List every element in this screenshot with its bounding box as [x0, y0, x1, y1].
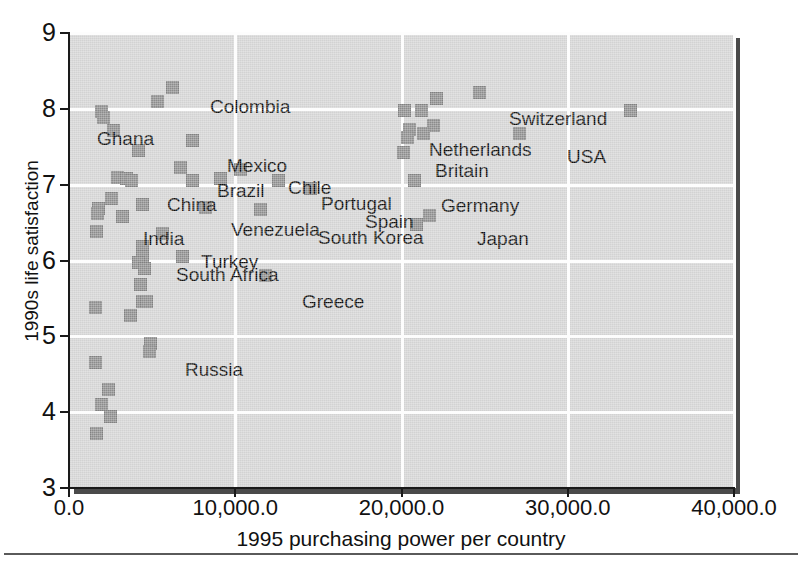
data-point-netherlands [415, 104, 428, 117]
gridline-x-40000 [733, 33, 736, 488]
data-point [136, 198, 149, 211]
gridline-x-30000 [567, 33, 570, 488]
point-label-mexico: Mexico [227, 156, 287, 175]
x-tick-label-30000: 30,000.0 [478, 497, 658, 519]
data-point [89, 356, 102, 369]
data-point [624, 104, 637, 117]
point-label-russia: Russia [185, 360, 243, 379]
y-axis-line [68, 32, 70, 489]
point-label-britain: Britain [435, 161, 489, 180]
data-point-switzerland [473, 86, 486, 99]
point-label-south-africa: South Africa [176, 265, 278, 284]
data-point [90, 225, 103, 238]
data-point [140, 295, 153, 308]
data-point [397, 146, 410, 159]
point-label-venezuela: Venezuela [231, 220, 320, 239]
data-point-germany [408, 174, 421, 187]
point-label-switzerland: Switzerland [509, 109, 607, 128]
y-axis-title: 1990s life satisfaction [21, 71, 43, 431]
data-point [104, 410, 117, 423]
y-tick-label-9: 9 [0, 20, 56, 45]
point-label-usa: USA [567, 147, 606, 166]
data-point-mexico [186, 134, 199, 147]
y-tick-7 [60, 184, 68, 186]
point-label-netherlands: Netherlands [429, 140, 531, 159]
point-label-brazil: Brazil [217, 181, 265, 200]
x-tick-label-20000: 20,000.0 [312, 497, 492, 519]
data-point [125, 174, 138, 187]
data-point [176, 250, 189, 263]
footer-rule [4, 553, 798, 555]
point-label-greece: Greece [302, 292, 364, 311]
x-tick-label-40000: 40,000.0 [644, 497, 802, 519]
y-tick-3 [60, 487, 68, 489]
x-tick-label-10000: 10,000.0 [145, 497, 325, 519]
data-point [90, 427, 103, 440]
data-point [91, 207, 104, 220]
data-point-portugal [272, 174, 285, 187]
data-point-colombia [166, 81, 179, 94]
point-label-colombia: Colombia [210, 97, 290, 116]
gridline-x-20000 [401, 33, 404, 488]
y-tick-5 [60, 335, 68, 337]
point-label-south-korea: South Korea [318, 228, 424, 247]
data-point [186, 174, 199, 187]
point-label-china: China [167, 195, 217, 214]
y-tick-9 [60, 32, 68, 34]
scatter-figure: ColombiaGhanaMexicoBrazilChileChinaPortu… [0, 0, 802, 568]
point-label-india: India [143, 229, 184, 248]
y-tick-8 [60, 108, 68, 110]
plot-area: ColombiaGhanaMexicoBrazilChileChinaPortu… [69, 33, 734, 488]
point-label-germany: Germany [441, 196, 519, 215]
x-tick-label-0: 0.0 [0, 497, 159, 519]
data-point [401, 131, 414, 144]
y-tick-4 [60, 411, 68, 413]
y-tick-6 [60, 260, 68, 262]
data-point [116, 210, 129, 223]
data-point [417, 127, 430, 140]
data-point [138, 262, 151, 275]
data-point [430, 92, 443, 105]
data-point [151, 95, 164, 108]
point-label-japan: Japan [477, 229, 529, 248]
data-point [97, 111, 110, 124]
data-point [102, 383, 115, 396]
point-label-ghana: Ghana [97, 129, 154, 148]
data-point [398, 104, 411, 117]
data-point [95, 398, 108, 411]
data-point-japan [423, 209, 436, 222]
data-point-brazil [174, 161, 187, 174]
data-point [89, 301, 102, 314]
data-point-south-korea [254, 203, 267, 216]
data-point [134, 278, 147, 291]
data-point [143, 345, 156, 358]
data-point [105, 192, 118, 205]
x-axis-title: 1995 purchasing power per country [0, 527, 802, 551]
data-point [124, 309, 137, 322]
